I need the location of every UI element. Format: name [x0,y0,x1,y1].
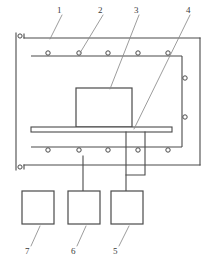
left-terminal-group [18,34,22,169]
upper-rail-roller-3 [106,51,110,55]
leader-line-2 [80,15,103,53]
leader-line-6 [77,226,86,246]
leader-line-1 [50,15,62,39]
reference-numeral-5: 5 [113,247,118,256]
bottom-box-6 [68,191,100,224]
reference-numeral-2: 2 [98,6,103,15]
lower-rail-roller-3 [106,148,110,152]
center-block [76,88,132,127]
reference-numeral-4: 4 [186,6,191,15]
upper-rail-roller-1 [46,51,50,55]
leader-line-7 [31,226,40,246]
leader-line-5 [119,226,129,246]
right-rail-rollers [183,76,187,119]
upper-rail-roller-4 [136,51,140,55]
horizontal-plate [31,127,172,132]
upper-rail-rollers [46,51,170,55]
lower-rail-roller-5 [166,148,170,152]
reference-numeral-7: 7 [25,247,30,256]
connector-group [83,132,145,191]
reference-numeral-1: 1 [57,6,62,15]
left-terminal-roller-top [18,34,22,38]
upper-rail-roller-5 [166,51,170,55]
bottom-box-7 [22,191,54,224]
reference-numeral-3: 3 [134,6,139,15]
right-rail-roller-2 [183,115,187,119]
leader-line-3 [110,15,139,89]
figure-drawing [0,0,207,263]
figure-container: 1 2 3 4 5 6 7 [0,0,207,263]
reference-numeral-6: 6 [71,247,76,256]
lower-rail-rollers [46,148,170,152]
right-rail-roller-1 [183,76,187,80]
left-terminal-roller-bottom [18,165,22,169]
lower-rail-roller-1 [46,148,50,152]
lower-rail-roller-4 [136,148,140,152]
bottom-box-5 [111,191,143,224]
connector-plate-right-drop [126,132,145,175]
lower-rail-roller-2 [77,148,81,152]
bottom-boxes-group [22,191,143,224]
